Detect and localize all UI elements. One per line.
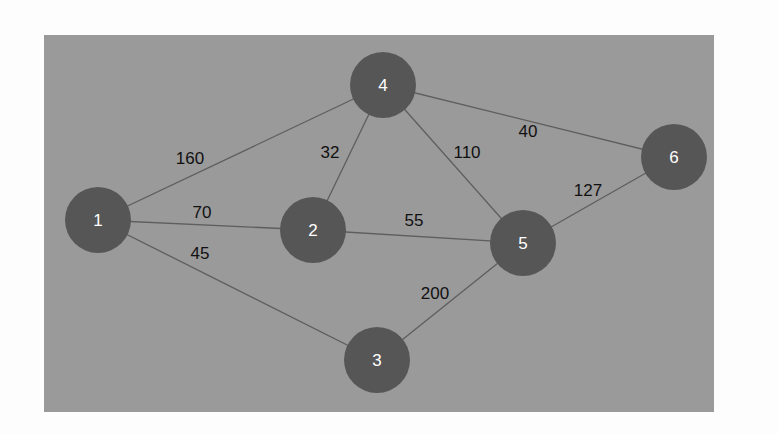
graph-diagram: 1607045325511040127200 123456 [0,0,778,434]
edge-weight-label: 40 [519,122,538,141]
edge-weight-label: 200 [421,284,449,303]
graph-node-2: 2 [280,197,346,263]
edge-weight-label: 45 [191,244,210,263]
edge-1-4 [98,85,383,220]
graph-node-5: 5 [490,210,556,276]
node-label: 2 [308,221,317,240]
graph-node-1: 1 [65,187,131,253]
graph-node-3: 3 [344,327,410,393]
edges-layer [98,85,674,360]
edge-weight-label: 55 [405,211,424,230]
node-label: 5 [518,234,527,253]
edge-weight-label: 110 [453,143,480,162]
node-label: 3 [372,351,381,370]
graph-node-6: 6 [641,124,707,190]
edge-weight-label: 160 [176,149,204,168]
node-label: 1 [93,211,102,230]
edge-labels-layer: 1607045325511040127200 [176,122,602,303]
node-label: 4 [378,76,387,95]
edge-weight-label: 127 [574,181,602,200]
edge-weight-label: 70 [193,203,212,222]
edge-weight-label: 32 [321,143,340,162]
node-label: 6 [669,148,678,167]
graph-node-4: 4 [350,52,416,118]
